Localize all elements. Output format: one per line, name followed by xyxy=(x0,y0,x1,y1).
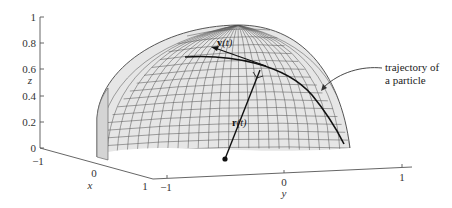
z-tick-label: 0.4 xyxy=(22,90,36,102)
z-axis-label: z xyxy=(27,74,33,86)
x-tick-label: 0 xyxy=(91,167,97,179)
hemisphere-figure: 0 0.2 0.4 0.6 0.8 1 z −1 0 1 x −1 0 1 y … xyxy=(0,0,452,208)
z-tick-labels: 0 0.2 0.4 0.6 0.8 1 z xyxy=(22,11,36,154)
annotation-line-2: a particle xyxy=(385,74,426,86)
y-axis-label: y xyxy=(281,187,287,199)
z-tick-label: 0 xyxy=(31,142,37,154)
annotation-line-1: trajectory of xyxy=(385,61,439,73)
y-tick-labels: −1 0 1 y xyxy=(160,171,405,199)
z-tick-label: 1 xyxy=(31,11,37,23)
figure-canvas: 0 0.2 0.4 0.6 0.8 1 z −1 0 1 x −1 0 1 y … xyxy=(0,0,452,208)
position-vector-label: r(t) xyxy=(232,117,247,129)
x-axis-label: x xyxy=(87,179,93,191)
annotation-leader xyxy=(324,68,382,87)
y-tick-label: −1 xyxy=(160,181,172,193)
z-tick-label: 0.8 xyxy=(22,37,36,49)
origin-point xyxy=(222,156,227,161)
y-tick-label: 1 xyxy=(399,171,405,183)
position-vector-arg: (t) xyxy=(237,117,247,129)
velocity-vector-arg: (t) xyxy=(222,37,232,49)
hemisphere-inner-rim xyxy=(97,88,108,160)
x-tick-labels: −1 0 1 x xyxy=(32,155,148,192)
z-ticks xyxy=(40,17,44,148)
z-tick-label: 0.2 xyxy=(22,116,36,128)
x-tick-label: −1 xyxy=(32,155,44,167)
x-tick-label: 1 xyxy=(142,180,148,192)
velocity-vector-label: v(t) xyxy=(217,37,233,49)
